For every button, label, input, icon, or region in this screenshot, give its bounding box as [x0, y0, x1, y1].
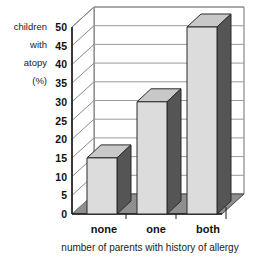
bar-none-front: [87, 158, 117, 214]
y-tick-45: 45: [55, 40, 67, 52]
x-tick-label-both: both: [196, 223, 220, 235]
bar-none: [87, 145, 131, 214]
x-tick-label-none: none: [91, 223, 117, 235]
x-tick-labels: none one both: [91, 223, 220, 235]
y-axis-title-line-1: children: [14, 21, 47, 32]
bar-both-side: [217, 14, 231, 214]
y-tick-50: 50: [55, 21, 67, 33]
x-tick-label-one: one: [146, 223, 166, 235]
bar-one-front: [137, 102, 167, 214]
y-tick-20: 20: [55, 133, 67, 145]
y-axis-title-line-2: with: [29, 39, 47, 50]
y-tick-30: 30: [55, 96, 67, 108]
y-tick-15: 15: [55, 152, 67, 164]
y-axis-title-line-4: (%): [32, 75, 47, 86]
bar-both-front: [187, 27, 217, 214]
y-tick-5: 5: [61, 189, 67, 201]
y-tick-labels: 0 5 10 15 20 25 30 35 40 45 50: [55, 21, 67, 220]
y-axis-title: children with atopy (%): [14, 21, 48, 86]
bar-one-side: [167, 89, 181, 214]
x-axis-title: number of parents with history of allerg…: [61, 242, 238, 253]
bar-one: [137, 89, 181, 214]
bar-both: [187, 14, 231, 214]
y-tick-10: 10: [55, 171, 67, 183]
plot-area: [72, 7, 244, 219]
chart-svg: 0 5 10 15 20 25 30 35 40 45 50 children …: [0, 0, 271, 258]
y-axis-title-line-3: atopy: [24, 57, 47, 68]
y-tick-25: 25: [55, 115, 67, 127]
y-tick-35: 35: [55, 77, 67, 89]
y-tick-40: 40: [55, 58, 67, 70]
y-tick-0: 0: [61, 208, 67, 220]
atopy-bar-chart: 0 5 10 15 20 25 30 35 40 45 50 children …: [0, 0, 271, 258]
